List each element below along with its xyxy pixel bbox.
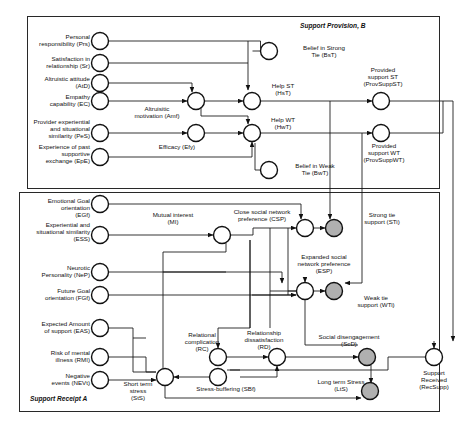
node-AtD[interactable] bbox=[92, 75, 109, 92]
node-label-ESS: Experiential and situational similarity … bbox=[0, 221, 90, 243]
node-label-SBf: Stress-buffering (SBf) bbox=[182, 385, 270, 392]
node-Efy[interactable] bbox=[188, 125, 205, 142]
node-label-MI: Mutual interest (MI) bbox=[138, 211, 208, 225]
node-label-ESP: Expanded social network preference (ESP) bbox=[282, 253, 366, 275]
node-label-EC: Empathy capability (EC) bbox=[6, 93, 90, 107]
node-label-Amf: Altruisitic motivation (Amf) bbox=[120, 105, 194, 119]
node-label-RMI: Risk of mental illness (RMI) bbox=[6, 349, 90, 363]
node-label-EGf: Emotional Goal orientation (EGf) bbox=[6, 197, 90, 219]
node-label-FGf: Future Goal orientation (FGf) bbox=[6, 287, 90, 301]
node-EC[interactable] bbox=[92, 93, 109, 110]
node-ProvSuppWT[interactable] bbox=[373, 125, 390, 142]
node-label-NEVt: Negative events (NEVt) bbox=[6, 372, 90, 386]
node-label-PeS: Provider experiential and situational si… bbox=[2, 118, 90, 140]
node-MI[interactable] bbox=[214, 227, 231, 244]
node-label-HwT: Help WT (HwT) bbox=[258, 116, 308, 130]
node-label-EAS: Expected Amount of support (EAS) bbox=[4, 320, 90, 334]
node-RD[interactable] bbox=[269, 349, 286, 366]
node-label-RecSupp: Support Received (RecSupp) bbox=[400, 369, 468, 391]
diagram-canvas: Personal responsibility (Prs)Satisfactio… bbox=[0, 0, 471, 425]
node-label-STi: Strong tie support (STi) bbox=[352, 211, 412, 225]
node-label-EpE: Experience of past supportive exchange (… bbox=[2, 143, 90, 165]
node-label-LtS: Long term Stress (LtS) bbox=[305, 378, 377, 392]
box-title-B: Support Provision, B bbox=[300, 22, 366, 29]
node-label-WTi: Weak tie support (WTi) bbox=[346, 294, 406, 308]
node-label-BwT: Belief in Weak Tie (BwT) bbox=[280, 162, 350, 176]
node-label-Prs: Personal responsibility (Prs) bbox=[6, 33, 90, 47]
node-label-StS: Short term stress (StS) bbox=[113, 380, 163, 402]
node-label-HsT: Help ST (HsT) bbox=[258, 82, 308, 96]
node-label-NeP: Neurotic Personality (NeP) bbox=[6, 264, 90, 278]
node-label-CSP: Close social network preference (CSP) bbox=[216, 208, 308, 222]
node-STi[interactable] bbox=[326, 220, 343, 237]
node-label-BsT: Belief in Strong Tie (BsT) bbox=[286, 44, 362, 58]
node-label-ProvSuppWT: Provided support WT (ProvSuppWT) bbox=[343, 142, 425, 164]
node-Sr[interactable] bbox=[92, 55, 109, 72]
node-BwT[interactable] bbox=[261, 162, 278, 179]
node-PeS[interactable] bbox=[92, 125, 109, 142]
node-label-RD: Relationship dissatisfaction (RD) bbox=[226, 329, 302, 351]
box-title-A: Support Receipt A bbox=[30, 395, 87, 402]
node-ESP[interactable] bbox=[297, 283, 314, 300]
node-RecSupp[interactable] bbox=[426, 349, 443, 366]
node-ScD[interactable] bbox=[359, 349, 376, 366]
node-RMI[interactable] bbox=[92, 349, 109, 366]
node-label-ScD: Social disengagement (ScD) bbox=[300, 333, 398, 347]
node-SBf[interactable] bbox=[210, 369, 227, 386]
node-label-Efy: Efficacy (Efy) bbox=[146, 143, 208, 150]
node-EAS[interactable] bbox=[92, 320, 109, 337]
node-NeP[interactable] bbox=[92, 264, 109, 281]
node-EGf[interactable] bbox=[92, 196, 109, 213]
node-ESS[interactable] bbox=[92, 227, 109, 244]
node-WTi[interactable] bbox=[326, 283, 343, 300]
node-ProvSuppST[interactable] bbox=[373, 93, 390, 110]
node-NEVt[interactable] bbox=[92, 372, 109, 389]
node-FGf[interactable] bbox=[92, 287, 109, 304]
node-label-AtD: Altruistic attitude (AtD) bbox=[6, 75, 90, 89]
node-label-Sr: Satisfaction in relationship (Sr) bbox=[6, 55, 90, 69]
node-EpE[interactable] bbox=[92, 149, 109, 166]
node-label-RC: Relational complication (RC) bbox=[172, 331, 232, 353]
node-label-ProvSuppST: Provided support ST (ProvSuppST) bbox=[343, 66, 423, 88]
node-BsT[interactable] bbox=[261, 43, 278, 60]
node-Prs[interactable] bbox=[92, 33, 109, 50]
